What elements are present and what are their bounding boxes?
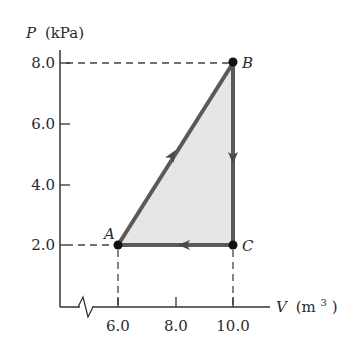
point-c-label: C: [242, 237, 254, 255]
y-tick-label-2: 2.0: [31, 236, 55, 254]
x-axis-title: V (m 3 ): [276, 292, 338, 316]
x-axis-unit-exponent: 3: [320, 297, 326, 308]
point-a-dot: [114, 241, 123, 250]
x-tick-label-10: 10.0: [216, 317, 249, 335]
x-axis-symbol: V: [276, 298, 289, 316]
y-axis-unit: (kPa): [45, 24, 84, 42]
x-axis-unit-close: ): [332, 298, 338, 316]
point-b-dot: [229, 58, 238, 67]
y-tick-label-8: 8.0: [31, 54, 55, 72]
x-tick-label-8: 8.0: [164, 317, 188, 335]
y-tick-label-4: 4.0: [31, 176, 55, 194]
point-b-label: B: [241, 54, 253, 72]
y-tick-label-6: 6.0: [31, 115, 55, 133]
y-axis-title: P (kPa): [25, 24, 84, 42]
pv-diagram: 8.0 6.0 4.0 2.0 6.0 8.0 10.0 P (kPa) V (…: [0, 0, 356, 359]
y-axis-symbol: P: [25, 24, 37, 42]
x-tick-label-6: 6.0: [106, 317, 130, 335]
point-c-dot: [229, 241, 238, 250]
point-a-label: A: [102, 225, 115, 243]
x-axis-unit: (m: [296, 298, 316, 316]
